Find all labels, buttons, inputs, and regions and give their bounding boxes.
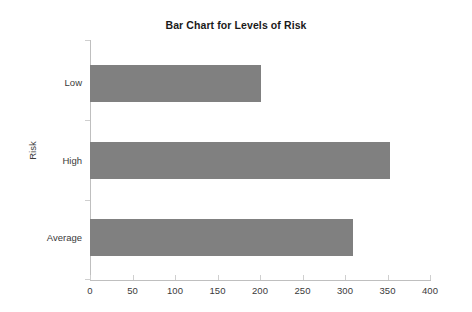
x-axis-tick-50	[133, 275, 134, 280]
x-axis-tick-label-150: 150	[198, 285, 238, 296]
x-axis-tick-250	[303, 275, 304, 280]
y-axis-tick-label-high: High	[6, 155, 90, 166]
x-axis-tick-label-400: 400	[410, 285, 450, 296]
bar-high	[90, 142, 390, 179]
x-axis-tick-label-100: 100	[155, 285, 195, 296]
x-axis-tick-label-50: 50	[113, 285, 153, 296]
y-axis-tick-label-average: Average	[6, 232, 90, 243]
x-axis-tick-400	[430, 275, 431, 280]
x-axis-tick-label-300: 300	[325, 285, 365, 296]
x-axis-tick-150	[218, 275, 219, 280]
x-axis-tick-300	[345, 275, 346, 280]
x-axis-tick-label-200: 200	[240, 285, 280, 296]
bar-low	[90, 65, 261, 102]
x-axis-tick-200	[260, 275, 261, 280]
plot-area	[90, 40, 430, 280]
bar-average	[90, 219, 353, 256]
x-axis-tick-100	[175, 275, 176, 280]
bar-chart: Bar Chart for Levels of Risk Risk Low Hi…	[0, 0, 472, 312]
x-axis-tick-350	[388, 275, 389, 280]
x-axis-tick-label-0: 0	[70, 285, 110, 296]
x-axis-tick-0	[90, 275, 91, 280]
x-axis-tick-label-250: 250	[283, 285, 323, 296]
y-axis-labels: Low High Average	[0, 0, 90, 312]
y-axis-tick-label-low: Low	[6, 77, 90, 88]
x-axis-tick-label-350: 350	[368, 285, 408, 296]
